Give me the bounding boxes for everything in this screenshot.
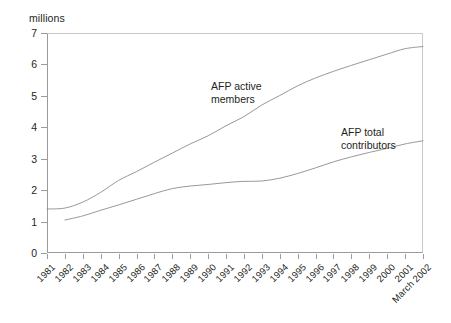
x-axis-tick	[298, 254, 299, 259]
x-axis-tick-label: 1984	[89, 262, 111, 284]
annotation-active-line1: AFP active	[211, 80, 262, 93]
y-axis-tick-label: 7	[22, 28, 37, 38]
x-axis-tick	[83, 254, 84, 259]
x-axis-tick	[423, 254, 424, 259]
x-axis-tick	[316, 254, 317, 259]
x-axis-tick	[101, 254, 102, 259]
y-axis-tick-label: 5	[22, 91, 37, 101]
x-axis-tick	[387, 254, 388, 259]
y-axis-tick-label: 0	[22, 248, 37, 258]
x-axis-tick	[226, 254, 227, 259]
annotation-afp-total-contributors: AFP total contributors	[341, 126, 396, 151]
x-axis-tick	[172, 254, 173, 259]
x-axis-tick	[333, 254, 334, 259]
x-axis-tick	[369, 254, 370, 259]
annotation-total-line2: contributors	[341, 139, 396, 152]
y-axis-tick-label: 3	[22, 154, 37, 164]
x-axis-tick	[405, 254, 406, 259]
annotation-afp-active-members: AFP active members	[211, 80, 262, 105]
y-axis-unit-caption: millions	[29, 12, 65, 24]
x-axis-tick-label: 1985	[107, 262, 129, 284]
y-axis-tick-label: 2	[22, 185, 37, 195]
x-axis-tick	[190, 254, 191, 259]
x-axis-tick	[119, 254, 120, 259]
x-axis-tick	[47, 254, 48, 259]
y-axis-tick-label: 4	[22, 122, 37, 132]
annotation-active-line2: members	[211, 93, 262, 106]
x-axis-tick	[262, 254, 263, 259]
x-axis-tick	[280, 254, 281, 259]
y-axis-tick-label: 6	[22, 59, 37, 69]
chart-container: millions 01234567 1981198219831984198519…	[0, 0, 451, 323]
x-axis-tick	[154, 254, 155, 259]
y-axis-tick-label: 1	[22, 217, 37, 227]
x-axis-tick	[351, 254, 352, 259]
x-axis-tick	[65, 254, 66, 259]
annotation-total-line1: AFP total	[341, 126, 396, 139]
x-axis-tick	[208, 254, 209, 259]
x-axis-tick	[137, 254, 138, 259]
x-axis-tick-label: 1995	[286, 262, 308, 284]
x-axis-tick-label: 1994	[268, 262, 290, 284]
x-axis-tick	[244, 254, 245, 259]
